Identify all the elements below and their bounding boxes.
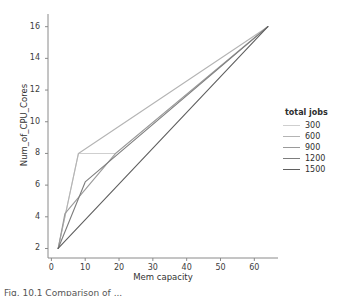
legend-label-600: 600 bbox=[305, 132, 320, 141]
legend-label-900: 900 bbox=[305, 143, 320, 152]
legend-label-1500: 1500 bbox=[305, 165, 325, 174]
legend-swatch-900 bbox=[283, 147, 300, 148]
x-tick-label: 60 bbox=[242, 264, 266, 272]
x-tick-label: 0 bbox=[39, 264, 63, 272]
figure-caption: Fig. 10.1 Comparison of ... bbox=[4, 288, 338, 296]
legend-swatch-1200 bbox=[283, 158, 300, 159]
axis-ticks bbox=[45, 27, 254, 261]
legend-swatch-1500 bbox=[283, 169, 300, 170]
data-series-group bbox=[58, 27, 268, 249]
legend-title: total jobs bbox=[285, 108, 341, 117]
legend-swatch-300 bbox=[283, 125, 300, 126]
legend-entries: 30060090012001500 bbox=[283, 120, 341, 175]
legend-label-300: 300 bbox=[305, 121, 320, 130]
x-tick-label: 30 bbox=[141, 264, 165, 272]
y-axis-label: Num_of_CPU_Cores bbox=[19, 55, 29, 195]
legend-item-900[interactable]: 900 bbox=[283, 142, 341, 153]
x-tick-label: 20 bbox=[107, 264, 131, 272]
legend: total jobs 30060090012001500 bbox=[283, 108, 341, 175]
x-tick-label: 40 bbox=[175, 264, 199, 272]
axis-spines bbox=[48, 14, 278, 258]
x-tick-label: 10 bbox=[73, 264, 97, 272]
legend-item-1500[interactable]: 1500 bbox=[283, 164, 341, 175]
legend-label-1200: 1200 bbox=[305, 154, 325, 163]
legend-item-1200[interactable]: 1200 bbox=[283, 153, 341, 164]
figure-container: 246810121416 0102030405060 Mem capacity … bbox=[0, 0, 342, 296]
y-tick-label: 4 bbox=[16, 213, 40, 221]
x-tick-label: 50 bbox=[209, 264, 233, 272]
x-axis-label: Mem capacity bbox=[48, 272, 278, 282]
legend-item-600[interactable]: 600 bbox=[283, 131, 341, 142]
y-tick-label: 16 bbox=[16, 23, 40, 31]
series-line-1500 bbox=[58, 27, 268, 249]
y-tick-label: 2 bbox=[16, 244, 40, 252]
legend-swatch-600 bbox=[283, 136, 300, 137]
legend-item-300[interactable]: 300 bbox=[283, 120, 341, 131]
